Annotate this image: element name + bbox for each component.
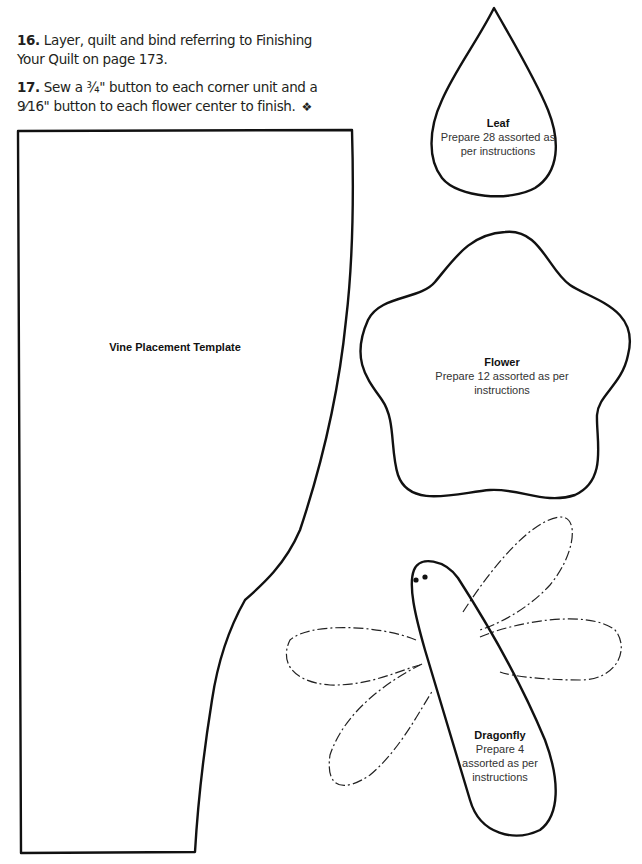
- dragonfly-title: Dragonfly: [457, 728, 543, 742]
- dragonfly-body-outline: [412, 561, 556, 835]
- leaf-title: Leaf: [438, 116, 558, 130]
- vine-template-title: Vine Placement Template: [85, 340, 265, 354]
- wing-lower-left: [329, 664, 433, 785]
- vine-template-label: Vine Placement Template: [85, 340, 265, 354]
- leaf-template-label: Leaf Prepare 28 assorted as per instruct…: [438, 116, 558, 158]
- dragonfly-template-label: Dragonfly Prepare 4 assorted as per inst…: [457, 728, 543, 784]
- vine-template-outline: [18, 130, 353, 853]
- dragonfly-eye-right: [422, 574, 427, 579]
- flower-title: Flower: [432, 355, 572, 369]
- dragonfly-desc: Prepare 4 assorted as per instructions: [457, 742, 543, 784]
- leaf-template-outline: [432, 8, 556, 196]
- leaf-desc: Prepare 28 assorted as per instructions: [438, 130, 558, 158]
- flower-template-label: Flower Prepare 12 assorted as per instru…: [432, 355, 572, 397]
- dragonfly-eye-left: [413, 577, 418, 582]
- flower-desc: Prepare 12 assorted as per instructions: [432, 369, 572, 397]
